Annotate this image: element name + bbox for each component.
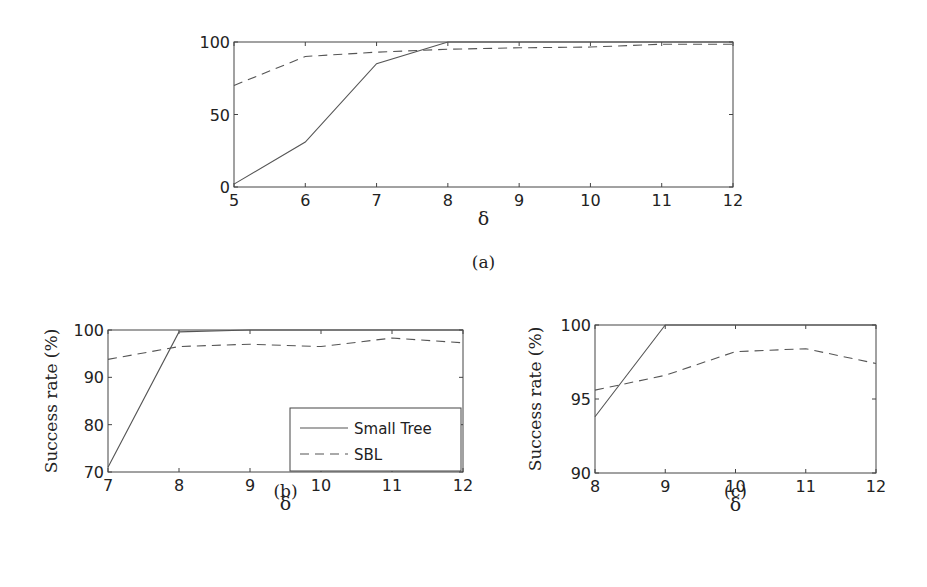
y-tick-label: 70 xyxy=(84,463,104,482)
chart-b: 789101112708090100δSuccess rate (%)(b)Sm… xyxy=(41,321,473,514)
chart-a: 56789101112050100δ(a) xyxy=(199,33,743,272)
x-axis-label: δ xyxy=(478,207,489,229)
plot-frame xyxy=(234,42,733,187)
x-tick-label: 7 xyxy=(371,191,381,210)
x-tick-label: 10 xyxy=(311,476,331,495)
x-tick-label: 12 xyxy=(723,191,743,210)
y-axis-label: Success rate (%) xyxy=(41,329,61,474)
y-tick-label: 100 xyxy=(73,321,104,340)
x-tick-label: 8 xyxy=(443,191,453,210)
y-axis-label: Success rate (%) xyxy=(525,327,545,472)
legend-label: SBL xyxy=(354,446,383,464)
subfigure-caption: (b) xyxy=(273,481,297,501)
legend-label: Small Tree xyxy=(354,420,432,438)
subfigure-caption: (a) xyxy=(472,252,495,272)
x-tick-label: 9 xyxy=(514,191,524,210)
x-tick-label: 12 xyxy=(453,476,473,495)
y-tick-label: 50 xyxy=(210,106,230,125)
x-tick-label: 6 xyxy=(300,191,310,210)
y-tick-label: 80 xyxy=(84,416,104,435)
x-tick-label: 11 xyxy=(796,477,816,496)
x-tick-label: 10 xyxy=(580,191,600,210)
x-tick-label: 8 xyxy=(174,476,184,495)
x-tick-label: 11 xyxy=(652,191,672,210)
y-tick-label: 95 xyxy=(571,390,591,409)
series-line-small-tree xyxy=(234,42,733,184)
series-line-small-tree xyxy=(595,325,876,417)
x-tick-label: 9 xyxy=(245,476,255,495)
series-line-sbl xyxy=(108,338,463,359)
x-tick-label: 5 xyxy=(229,191,239,210)
plot-frame xyxy=(595,325,876,473)
y-tick-label: 90 xyxy=(571,464,591,483)
legend: Small TreeSBL xyxy=(290,408,461,471)
chart-c: 891011129095100δSuccess rate (%)(c) xyxy=(525,316,886,515)
figure-canvas: 56789101112050100δ(a)789101112708090100δ… xyxy=(0,0,927,587)
x-tick-label: 11 xyxy=(382,476,402,495)
x-tick-label: 7 xyxy=(103,476,113,495)
series-line-sbl xyxy=(234,44,733,85)
x-tick-label: 12 xyxy=(866,477,886,496)
y-tick-label: 100 xyxy=(199,33,230,52)
series-line-sbl xyxy=(595,349,876,390)
y-tick-label: 90 xyxy=(84,368,104,387)
x-tick-label: 9 xyxy=(660,477,670,496)
y-tick-label: 0 xyxy=(220,178,230,197)
y-tick-label: 100 xyxy=(560,316,591,335)
x-tick-label: 8 xyxy=(590,477,600,496)
subfigure-caption: (c) xyxy=(724,481,747,501)
